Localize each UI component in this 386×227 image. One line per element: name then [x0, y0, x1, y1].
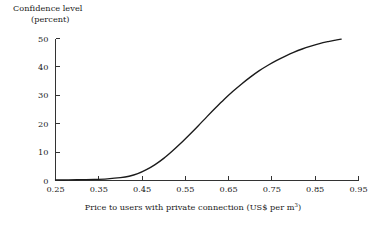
x-tick-label: 0.45	[133, 184, 151, 194]
x-tick-label: 0.25	[46, 184, 64, 194]
x-tick-label: 0.75	[263, 184, 281, 194]
y-tick-label: 40	[38, 62, 48, 72]
data-series	[56, 39, 342, 180]
chart-plot-area: 01020304050 0.250.350.450.550.650.750.85…	[0, 0, 386, 227]
x-tick-label: 0.35	[90, 184, 108, 194]
x-tick-label: 0.95	[349, 184, 367, 194]
x-tick-label: 0.65	[220, 184, 238, 194]
y-tick-label: 10	[38, 147, 48, 157]
x-axis-title-main: Price to users with private connection (…	[85, 202, 295, 212]
y-tick-label: 30	[38, 90, 48, 100]
y-axis: 01020304050	[38, 34, 59, 186]
x-axis-title: Price to users with private connection (…	[0, 202, 386, 213]
x-axis-title-tail: )	[298, 202, 301, 212]
y-tick-label: 50	[38, 34, 48, 44]
y-tick-label: 20	[38, 119, 48, 129]
chart-figure: Confidence level (percent) 01020304050 0…	[0, 0, 386, 227]
series-line	[56, 39, 342, 180]
x-tick-label: 0.85	[306, 184, 324, 194]
x-tick-label: 0.55	[176, 184, 194, 194]
